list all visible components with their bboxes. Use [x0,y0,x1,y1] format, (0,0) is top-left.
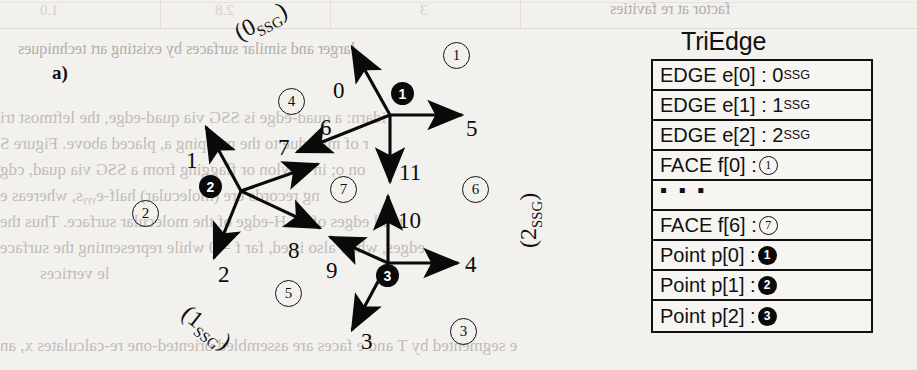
triedge-row-sub: SSG [783,128,810,142]
triedge-row-ellipsis: ▪ ▪ ▪ [653,181,871,211]
triedge-row-point-0: Point p[0] : 1 [653,241,871,271]
ellipsis-label: ▪ ▪ ▪ [660,185,707,195]
face-circle-2: 2 [132,200,159,227]
edge-label-10: 10 [398,208,421,234]
edge-6 [297,115,390,152]
triedge-row-label: Point p[0] : [660,244,756,267]
face-circle-3: 3 [450,318,477,345]
triedge-row-sub: SSG [783,68,810,82]
point-marker-inline: 3 [758,307,777,326]
triedge-row-label: FACE f[0] : [660,154,757,177]
triedge-row-label: Point p[1] : [660,274,756,297]
face-circle-7: 7 [330,176,357,203]
triedge-row-face-0: FACE f[0] : 1 [653,151,871,181]
panel-letter: a) [52,62,68,84]
edge-label-7: 7 [278,135,290,161]
point-marker-1: 1 [391,82,414,105]
triedge-row-edge-2: EDGE e[2] : 2SSG [653,121,871,151]
triedge-row-label: EDGE e[0] : 0 [660,64,783,87]
edge-label-5: 5 [466,116,478,142]
point-marker-3: 3 [376,264,399,287]
triedge-row-label: Point p[2] : [660,305,756,328]
face-circle-4: 4 [278,88,305,115]
triedge-row-sub: SSG [783,98,810,112]
triedge-row-edge-1: EDGE e[1] : 1SSG [653,91,871,121]
triedge-struct-table: EDGE e[0] : 0SSG EDGE e[1] : 1SSG EDGE e… [651,59,873,333]
face-circle-inline: 1 [759,156,778,175]
point-marker-inline: 1 [758,246,777,265]
edge-label-2: 2 [218,262,230,288]
triedge-row-face-6: FACE f[6] : 7 [653,211,871,241]
point-marker-inline: 2 [758,276,777,295]
face-circle-6: 6 [462,176,489,203]
triedge-row-label: FACE f[6] : [660,214,757,237]
edge-label-8: 8 [288,238,300,264]
triedge-row-label: EDGE e[2] : 2 [660,124,783,147]
figure-root: 1.0 2.8 3 factor at re favities larger a… [0,0,917,370]
edge-label-0: 0 [333,78,345,104]
edge-2 [214,191,241,258]
triedge-row-point-1: Point p[1] : 2 [653,271,871,301]
edge-label-3: 3 [361,329,373,355]
triedge-row-point-2: Point p[2] : 3 [653,301,871,331]
triedge-row-label: EDGE e[1] : 1 [660,94,783,117]
ssg-group-2-label: (2SSG) [515,193,546,248]
face-circle-5: 5 [275,280,302,307]
edge-9 [330,237,388,263]
face-circle-inline: 7 [759,216,778,235]
edge-label-11: 11 [399,160,421,186]
edge-label-1: 1 [186,148,198,174]
edge-label-9: 9 [326,258,338,284]
triedge-title: TriEdge [681,27,766,56]
edge-7 [241,164,318,191]
edge-8 [241,191,320,228]
edge-label-6: 6 [320,115,332,141]
point-marker-2: 2 [199,175,222,198]
face-circle-1: 1 [443,42,470,69]
edge-0 [352,47,390,115]
edge-label-4: 4 [465,252,477,278]
triedge-row-edge-0: EDGE e[0] : 0SSG [653,61,871,91]
